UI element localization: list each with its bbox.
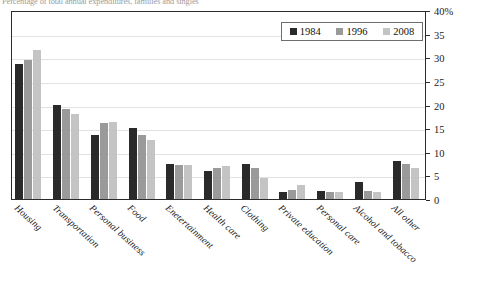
bar — [204, 171, 212, 199]
legend-swatch-icon — [290, 28, 297, 35]
y-axis-tick-mark — [426, 58, 430, 59]
y-axis-tick-mark — [426, 35, 430, 36]
y-axis-tick-label: 5 — [434, 171, 439, 182]
y-axis-tick-mark — [426, 129, 430, 130]
x-axis-tick-label: Food — [126, 202, 149, 224]
bar — [364, 191, 372, 200]
bar-group — [129, 12, 156, 199]
bar — [53, 105, 61, 200]
y-axis-tick-label: 40% — [434, 6, 453, 17]
bar — [222, 166, 230, 199]
bar — [15, 64, 23, 199]
chart-title: Percentage of total annual expenditures,… — [2, 0, 422, 7]
bar — [71, 114, 79, 199]
chart-container: Percentage of total annual expenditures,… — [0, 0, 496, 288]
bar-group — [15, 12, 42, 199]
bar — [109, 122, 117, 199]
legend-swatch-icon — [383, 28, 390, 35]
bar-group — [204, 12, 231, 199]
bar-group — [91, 12, 118, 199]
x-axis-tick-label: All other — [390, 202, 423, 233]
bar — [251, 168, 259, 199]
bar — [175, 165, 183, 199]
bar — [279, 192, 287, 199]
bar — [100, 123, 108, 199]
legend-item: 1996 — [336, 26, 367, 37]
legend-item: 1984 — [290, 26, 321, 37]
chart-legend: 198419962008 — [281, 22, 423, 41]
y-axis: 0510152025303540% — [430, 0, 492, 210]
bar — [166, 164, 174, 199]
y-axis-tick-label: 10 — [434, 147, 445, 158]
y-axis-tick-mark — [426, 11, 430, 12]
legend-item: 2008 — [383, 26, 414, 37]
bar — [411, 168, 419, 199]
x-axis-tick-label: Alcohol and tobacco — [352, 202, 420, 265]
bar-group — [166, 12, 193, 199]
legend-label: 1984 — [300, 26, 321, 37]
bar — [147, 140, 155, 199]
legend-label: 1996 — [346, 26, 367, 37]
y-axis-tick-label: 15 — [434, 124, 445, 135]
bar — [138, 135, 146, 199]
y-axis-tick-mark — [426, 153, 430, 154]
bar — [402, 164, 410, 199]
y-axis-tick-label: 35 — [434, 29, 445, 40]
y-axis-tick-mark — [426, 82, 430, 83]
bar — [355, 182, 363, 199]
bar — [62, 109, 70, 199]
bar — [317, 191, 325, 200]
y-axis-tick-mark — [426, 200, 430, 201]
bar — [260, 178, 268, 199]
bar — [393, 161, 401, 199]
bar — [335, 192, 343, 199]
bar — [288, 190, 296, 199]
x-axis-tick-label: Housing — [12, 202, 44, 232]
bar — [24, 60, 32, 199]
bar — [129, 128, 137, 199]
bar-group — [242, 12, 269, 199]
bar — [373, 192, 381, 199]
y-axis-tick-mark — [426, 176, 430, 177]
bar — [184, 165, 192, 199]
bar-group — [53, 12, 80, 199]
y-axis-tick-label: 30 — [434, 53, 445, 64]
x-axis-labels: HousingTransportationPersonal businessFo… — [0, 202, 496, 288]
legend-swatch-icon — [336, 28, 343, 35]
legend-label: 2008 — [393, 26, 414, 37]
bar — [33, 50, 41, 199]
bar — [326, 192, 334, 199]
y-axis-tick-label: 25 — [434, 76, 445, 87]
y-axis-tick-mark — [426, 106, 430, 107]
bar — [213, 168, 221, 199]
bar — [242, 164, 250, 199]
bar — [297, 185, 305, 199]
y-axis-tick-label: 20 — [434, 100, 445, 111]
bar — [91, 135, 99, 199]
x-axis-tick-label: Clothing — [239, 202, 272, 233]
